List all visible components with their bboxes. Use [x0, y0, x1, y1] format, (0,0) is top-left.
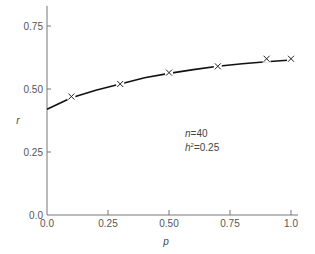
annotation-h2: h2=0.25 — [185, 142, 220, 153]
fitted-curve — [47, 60, 291, 109]
x-tick-label: 1.0 — [284, 218, 298, 229]
axes — [47, 6, 298, 215]
x-tick-label: 0.25 — [98, 218, 118, 229]
x-axis-label: p — [162, 236, 169, 247]
x-tick-label: 0.75 — [220, 218, 240, 229]
x-tick-label: 0.50 — [159, 218, 179, 229]
chart: 0.00.250.500.751.0 0.00.250.500.75 p r n… — [0, 0, 315, 254]
x-ticks: 0.00.250.500.751.0 — [40, 210, 298, 229]
y-tick-label: 0.0 — [29, 210, 43, 221]
annotation-n: n=40 — [185, 128, 208, 139]
y-tick-label: 0.50 — [24, 84, 44, 95]
y-tick-label: 0.25 — [24, 147, 44, 158]
y-axis-label: r — [16, 115, 20, 126]
y-tick-label: 0.75 — [24, 21, 44, 32]
